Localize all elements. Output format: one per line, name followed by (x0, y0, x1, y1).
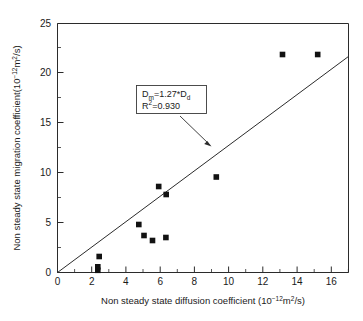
data-point (95, 264, 101, 270)
y-axis-title: Non steady state migration coefficient(1… (11, 45, 23, 250)
y-tick-label: 10 (40, 167, 52, 178)
annotation-arrow-shaft (180, 116, 210, 145)
data-point (96, 254, 102, 260)
x-tick-label: 8 (192, 276, 198, 287)
y-axis-title-exponent: −12 (11, 67, 18, 78)
y-axis-title-post: /s) (11, 45, 22, 56)
axes-frame (58, 24, 349, 273)
x-tick-label: 6 (157, 276, 163, 287)
x-tick-label: 16 (326, 276, 338, 287)
y-axis-title-pre: Non steady state migration coefficient(1… (11, 79, 22, 251)
x-axis-title-exponent: −12 (272, 295, 283, 302)
chart-figure: 0 2 4 6 8 10 12 14 16 0 5 10 15 20 25 No… (0, 0, 363, 321)
data-point (163, 235, 169, 241)
data-point (150, 238, 156, 244)
x-tick-label: 2 (89, 276, 95, 287)
data-point (156, 184, 162, 190)
y-tick-labels: 0 5 10 15 20 25 (40, 18, 52, 278)
x-axis-title-post: /s) (294, 295, 305, 306)
y-axis-title-mid: m (11, 60, 22, 68)
x-tick-label: 12 (257, 276, 269, 287)
annotation-callout: Dm=1.27*Dd R2=0.930 (137, 86, 212, 147)
y-tick-label: 5 (45, 217, 51, 228)
annotation-r-value: =0.930 (152, 101, 180, 111)
y-tick-label: 0 (45, 267, 51, 278)
x-tick-label: 0 (55, 276, 61, 287)
y-tick-label: 15 (40, 117, 52, 128)
data-point (280, 52, 286, 58)
x-tick-labels: 0 2 4 6 8 10 12 14 16 (55, 276, 338, 287)
data-point (141, 233, 147, 239)
x-axis-title: Non steady state diffusion coefficient (… (101, 295, 305, 307)
y-tick-label: 25 (40, 18, 52, 29)
data-point (136, 222, 142, 228)
y-axis-minor-ticks (58, 48, 62, 248)
annotation-line-2: R2=0.930 (142, 99, 180, 110)
annotation-arrow-head (204, 141, 211, 147)
y-axis-major-ticks (58, 24, 64, 273)
x-tick-label: 4 (123, 276, 129, 287)
x-axis-title-pre: Non steady state diffusion coefficient (… (101, 295, 272, 306)
y-tick-label: 20 (40, 67, 52, 78)
data-point (214, 174, 220, 180)
data-point (163, 192, 169, 198)
x-tick-label: 10 (223, 276, 235, 287)
x-axis-minor-ticks (75, 269, 349, 273)
x-axis-title-mid: m (283, 295, 291, 306)
data-point (315, 52, 321, 58)
scatter-plot: 0 2 4 6 8 10 12 14 16 0 5 10 15 20 25 No… (0, 0, 363, 321)
data-points (95, 52, 321, 273)
annotation-slope: =1.27*D (154, 89, 187, 99)
annotation-dd-subscript: d (187, 94, 191, 101)
x-tick-label: 14 (292, 276, 304, 287)
